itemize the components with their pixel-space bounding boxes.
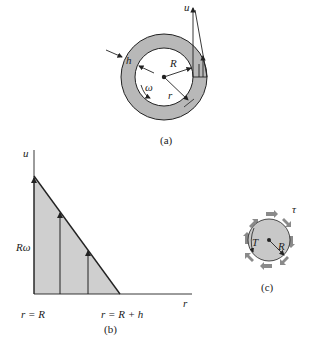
label-T: T (252, 236, 259, 248)
label-Romega: Rω (15, 241, 31, 253)
caption-b: (b) (104, 323, 117, 336)
panel-c: T R τ (c) (243, 203, 297, 294)
label-u-a: u (184, 1, 190, 13)
figure-canvas: u h R ω r (a) u r Rω r = R r = R + h (b) (0, 0, 314, 344)
label-omega: ω (145, 81, 153, 93)
caption-c: (c) (261, 281, 274, 294)
caption-a: (a) (160, 134, 173, 147)
label-r-eq-R: r = R (21, 308, 45, 320)
label-h: h (126, 54, 132, 66)
label-R-c: R (277, 240, 285, 252)
label-R-a: R (169, 57, 177, 69)
label-r-a: r (168, 89, 173, 101)
label-u-b: u (23, 147, 29, 159)
panel-a: u h R ω r (a) (106, 1, 207, 147)
panel-b: u r Rω r = R r = R + h (b) (15, 147, 192, 336)
label-r-eq-R-plus-h: r = R + h (101, 308, 144, 320)
pointer-arrow (106, 50, 122, 57)
label-tau: τ (292, 203, 297, 215)
label-x-axis: r (183, 297, 188, 309)
